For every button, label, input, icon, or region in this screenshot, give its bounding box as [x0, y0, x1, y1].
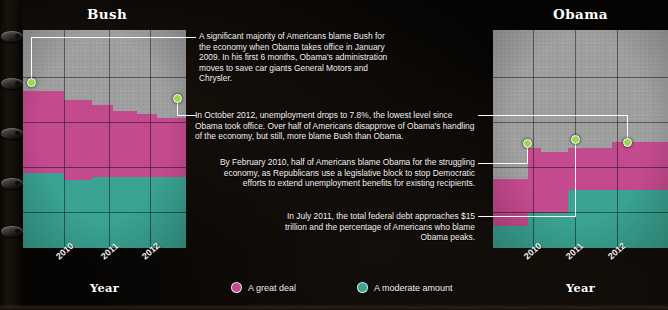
annotation-text-anno-3: By February 2010, half of Americans blam…	[215, 157, 475, 189]
xaxis-label-bush: Year	[23, 281, 186, 295]
panel-title-bush: Bush	[22, 6, 192, 22]
annotation-text-anno-1: A significant majority of Americans blam…	[199, 31, 395, 84]
annotation-marker-anno-2-end[interactable]	[623, 138, 632, 147]
annotation-marker-anno-4[interactable]	[571, 135, 580, 144]
leader-line-anno-4	[478, 216, 576, 217]
legend-label: A moderate amount	[374, 283, 453, 293]
leader-line-anno-2	[177, 115, 197, 116]
infographic-canvas: Bush 2010 2011 2012	[0, 0, 668, 310]
annotation-marker-anno-2[interactable]	[173, 94, 182, 103]
area-moderate-amount-obama	[493, 226, 528, 248]
panel-bush: Bush 2010 2011 2012	[0, 6, 200, 296]
area-moderate-amount-bush	[64, 180, 92, 248]
area-moderate-amount-bush	[23, 173, 64, 248]
area-moderate-amount-obama	[568, 190, 668, 248]
legend-item-great-deal[interactable]: A great deal	[231, 282, 296, 293]
leader-line-anno-2-right	[478, 115, 628, 116]
leader-line-anno-4	[575, 140, 576, 217]
leader-line-anno-3	[478, 163, 528, 164]
annotation-text-anno-4: In July 2011, the total federal debt app…	[265, 211, 475, 243]
annotation-marker-anno-3[interactable]	[523, 139, 532, 148]
annotation-text-anno-2: In October 2012, unemployment drops to 7…	[195, 110, 476, 142]
xaxis-label-obama: Year	[493, 281, 668, 295]
annotation-marker-anno-1[interactable]	[27, 78, 36, 87]
page-bottom-edge	[0, 304, 668, 310]
panel-obama: Obama 2010 2011 2012 Year	[470, 6, 668, 296]
leader-line-anno-1	[31, 37, 32, 82]
plot-area-bush	[23, 30, 186, 248]
legend-dot-icon	[357, 282, 368, 293]
legend-label: A great deal	[248, 283, 296, 293]
legend-dot-icon	[231, 282, 242, 293]
legend-item-moderate-amount[interactable]: A moderate amount	[357, 282, 453, 293]
panel-title-obama: Obama	[493, 6, 668, 22]
leader-line-anno-1	[31, 37, 196, 38]
